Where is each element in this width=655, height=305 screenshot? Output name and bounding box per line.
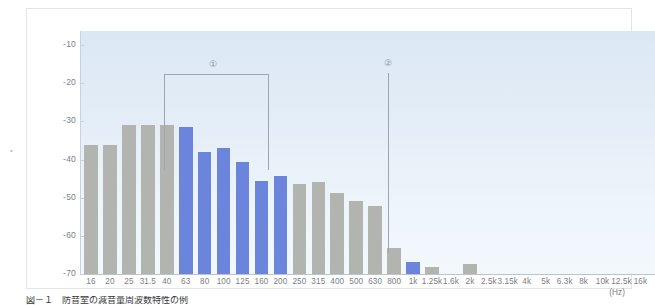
figure-caption: 図－１ 防音室の減音量周波数特性の例 — [26, 296, 632, 305]
bar-16 — [84, 145, 98, 274]
x-tick-label: 1.6k — [443, 277, 459, 287]
bar-800 — [387, 248, 401, 274]
bar-1.25k — [425, 267, 439, 274]
x-tick-label: 2k — [465, 277, 474, 287]
x-tick-label: 250 — [292, 277, 306, 287]
x-tick-label: 4k — [522, 277, 531, 287]
side-margin-mark: • — [10, 146, 13, 155]
x-tick-label: 31.5 — [140, 277, 156, 287]
x-tick-label: 630 — [368, 277, 382, 287]
x-tick-label: 12.5k — [611, 277, 632, 287]
y-tick-label: -40 — [50, 155, 76, 164]
annotation-pointer-2-label: ② — [384, 59, 392, 68]
x-tick-label: 5k — [541, 277, 550, 287]
x-tick-label: 80 — [200, 277, 209, 287]
x-tick-label: 1.25k — [422, 277, 443, 287]
annotation-bracket-1 — [164, 74, 269, 170]
x-axis-labels: 16202531.5406380100125160200250315400500… — [80, 277, 655, 291]
x-tick-label: 63 — [181, 277, 190, 287]
y-axis: -10-20-30-40-50-60-70 — [44, 9, 76, 305]
x-tick-label: 100 — [217, 277, 231, 287]
bar-500 — [349, 201, 363, 274]
x-tick-label: 800 — [387, 277, 401, 287]
y-tick-label: -20 — [50, 78, 76, 87]
y-tick-label: -30 — [50, 116, 76, 125]
x-axis-line — [80, 274, 655, 275]
y-tick-label: -10 — [50, 40, 76, 49]
bar-31.5 — [141, 125, 155, 274]
x-tick-label: 6.3k — [557, 277, 573, 287]
chart-figure-frame: -10-20-30-40-50-60-70 16202531.540638010… — [26, 8, 632, 289]
x-tick-label: 2.5k — [481, 277, 497, 287]
x-tick-label: 8k — [579, 277, 588, 287]
bar-315 — [312, 182, 326, 274]
x-tick-label: 1k — [409, 277, 418, 287]
y-tick-label: -70 — [50, 269, 76, 278]
bar-160 — [255, 181, 269, 274]
x-tick-label: 3.15k — [498, 277, 519, 287]
x-tick-label: 315 — [311, 277, 325, 287]
x-tick-label: 25 — [124, 277, 133, 287]
bar-400 — [330, 193, 344, 274]
bar-80 — [198, 152, 212, 274]
x-tick-label: 20 — [105, 277, 114, 287]
y-tick-label: -50 — [50, 193, 76, 202]
x-tick-label: 400 — [330, 277, 344, 287]
bar-630 — [368, 206, 382, 274]
x-tick-label: 200 — [273, 277, 287, 287]
bar-125 — [236, 162, 250, 274]
annotation-pointer-2 — [388, 73, 389, 253]
y-tick-mark — [80, 274, 84, 275]
figure-caption-text: 図－１ 防音室の減音量周波数特性の例 — [26, 296, 632, 305]
x-tick-label: 500 — [349, 277, 363, 287]
x-tick-label: 16k — [634, 277, 648, 287]
bar-2k — [463, 264, 477, 274]
x-tick-label: 40 — [162, 277, 171, 287]
x-tick-label: 10k — [596, 277, 610, 287]
bar-20 — [103, 145, 117, 274]
annotation-bracket-1-label: ① — [209, 60, 217, 69]
x-tick-label: 125 — [236, 277, 250, 287]
y-tick-label: -60 — [50, 231, 76, 240]
bar-200 — [274, 176, 288, 274]
x-tick-label: 16 — [86, 277, 95, 287]
bar-250 — [293, 184, 307, 274]
bar-25 — [122, 125, 136, 274]
x-tick-label: 160 — [255, 277, 269, 287]
bar-1k — [406, 262, 420, 274]
